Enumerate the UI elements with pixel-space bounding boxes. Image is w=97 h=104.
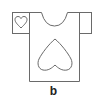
figure-label: b (0, 84, 97, 98)
large-heart-icon (38, 39, 72, 70)
shirt-body (30, 13, 80, 82)
left-sleeve (13, 13, 30, 34)
small-heart-icon (15, 17, 27, 29)
right-sleeve (80, 13, 92, 34)
